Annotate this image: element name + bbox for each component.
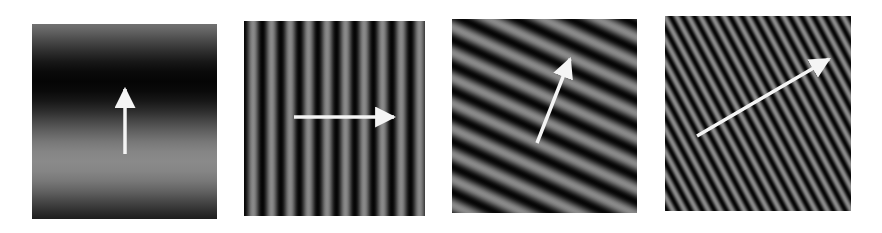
grating-panel-1: [32, 24, 217, 219]
grating-panel-3: [452, 19, 637, 213]
grating-panel-4: [665, 16, 851, 211]
grating-panel-2: [244, 21, 425, 216]
